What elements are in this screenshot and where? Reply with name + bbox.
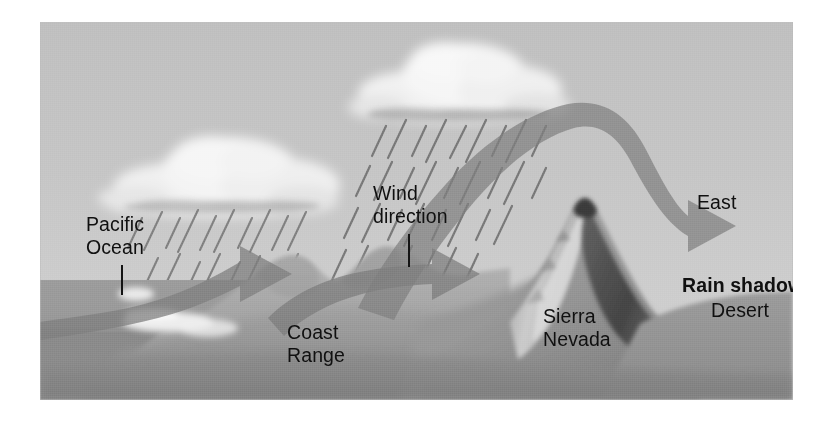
rain-shadow-diagram: Pacific Ocean Wind direction Coast Range… <box>40 22 793 400</box>
label-wind-direction: Wind direction <box>373 182 448 228</box>
label-desert: Desert <box>711 299 769 322</box>
label-east: East <box>697 191 736 214</box>
label-pacific-ocean: Pacific Ocean <box>86 213 144 259</box>
leader-line-wind-direction <box>408 234 410 267</box>
cloud-west-base-shadow <box>124 200 320 213</box>
figure-stage: Pacific Ocean Wind direction Coast Range… <box>0 0 828 426</box>
cloud-sierra-base-shadow <box>367 108 550 121</box>
label-coast-range: Coast Range <box>287 321 345 367</box>
label-sierra-nevada: Sierra Nevada <box>543 305 611 351</box>
label-rain-shadow: Rain shadow <box>682 274 793 297</box>
leader-line-pacific-ocean <box>121 265 123 295</box>
